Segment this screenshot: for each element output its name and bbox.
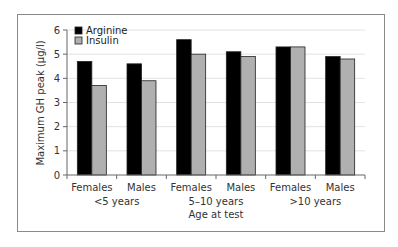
x-category-label: Females bbox=[170, 182, 211, 193]
axes bbox=[63, 30, 365, 179]
x-category-labels: FemalesMalesFemalesMalesFemalesMales bbox=[71, 182, 354, 193]
bar-insulin bbox=[142, 81, 157, 175]
legend-swatch-insulin bbox=[75, 37, 82, 44]
x-group-label: 5–10 years bbox=[189, 196, 244, 207]
legend-label-insulin: Insulin bbox=[86, 35, 119, 46]
y-tick-label: 5 bbox=[54, 49, 60, 60]
bar-insulin bbox=[340, 59, 355, 175]
y-tick-label: 6 bbox=[54, 25, 60, 36]
y-tick-label: 2 bbox=[54, 121, 60, 132]
bar-insulin bbox=[241, 57, 256, 175]
bar-insulin bbox=[191, 54, 206, 175]
y-tick-label: 0 bbox=[54, 170, 60, 181]
x-category-label: Males bbox=[127, 182, 156, 193]
y-tick-label: 1 bbox=[54, 145, 60, 156]
bar-insulin bbox=[92, 86, 107, 175]
x-category-label: Males bbox=[226, 182, 255, 193]
x-axis-title: Age at test bbox=[189, 209, 244, 220]
bar-arginine bbox=[77, 61, 92, 175]
x-group-labels: <5 years5–10 years>10 years bbox=[94, 196, 341, 207]
bars bbox=[77, 40, 354, 175]
x-group-label: <5 years bbox=[94, 196, 139, 207]
y-axis-title: Maximum GH peak (µg/l) bbox=[35, 40, 46, 165]
legend: ArginineInsulin bbox=[75, 25, 128, 46]
gridlines bbox=[67, 30, 365, 151]
bar-arginine bbox=[226, 52, 241, 175]
y-tick-labels: 0123456 bbox=[54, 25, 60, 181]
bar-insulin bbox=[291, 47, 306, 175]
bar-arginine bbox=[276, 47, 291, 175]
bar-chart: 0123456 FemalesMalesFemalesMalesFemalesM… bbox=[0, 0, 398, 247]
bar-arginine bbox=[127, 64, 142, 175]
bar-arginine bbox=[177, 40, 192, 175]
y-tick-label: 3 bbox=[54, 97, 60, 108]
y-tick-label: 4 bbox=[54, 73, 60, 84]
x-category-label: Females bbox=[71, 182, 112, 193]
x-group-label: >10 years bbox=[289, 196, 341, 207]
legend-swatch-arginine bbox=[75, 27, 82, 34]
x-category-label: Males bbox=[326, 182, 355, 193]
x-category-label: Females bbox=[270, 182, 311, 193]
bar-arginine bbox=[326, 57, 341, 175]
